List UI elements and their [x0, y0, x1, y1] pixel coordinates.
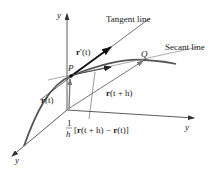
lower-left-axis-label: y — [14, 155, 19, 165]
r-prime-label: r′(t) — [76, 47, 90, 57]
r-t-plus-h-label: r(t + h) — [106, 88, 133, 98]
bracket-expression: [r(t + h) − r(t)] — [74, 125, 129, 135]
right-axis-label: y — [184, 122, 189, 132]
difference-quotient-label: 1 h [r(t + h) − r(t)] — [66, 118, 129, 139]
tangent-secant-diagram: y y y Tangent line Secant line P Q r′(t)… — [0, 0, 211, 177]
lower-left-axis — [12, 110, 67, 156]
point-p-dot — [69, 74, 73, 78]
fraction-numerator: 1 — [67, 118, 72, 128]
r-t-label: r(t) — [41, 95, 54, 105]
position-vector-r-t — [69, 79, 70, 109]
point-p-label: P — [67, 63, 74, 73]
fraction-denominator: h — [66, 129, 71, 139]
vertical-axis-label: y — [56, 10, 61, 20]
point-q-label: Q — [141, 49, 148, 59]
tangent-line-label: Tangent line — [106, 14, 151, 24]
right-axis — [67, 110, 194, 118]
secant-line-label: Secant line — [165, 42, 205, 52]
